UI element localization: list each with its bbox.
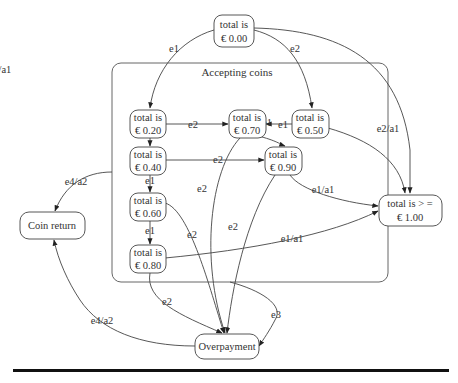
cluster-label: Accepting coins (201, 66, 272, 78)
svg-text:€ 0.40: € 0.40 (135, 162, 161, 173)
edge-label: e2/a1 (377, 123, 400, 134)
state-diagram: Accepting coins e1 e2 e3/a1 e2 e1 e2/a1 … (0, 0, 458, 383)
bottom-rule (13, 369, 449, 372)
edge-label: e1/a1 (312, 184, 335, 195)
edge-label: e4/a2 (65, 176, 88, 187)
edge-060-over (165, 203, 224, 333)
svg-text:Coin return: Coin return (28, 220, 77, 231)
edge-050-100 (328, 128, 405, 193)
svg-text:€ 1.00: € 1.00 (397, 212, 423, 223)
svg-text:€ 0.70: € 0.70 (234, 125, 260, 136)
svg-text:€ 0.20: € 0.20 (135, 125, 161, 136)
state-total-0-90: total is € 0.90 (265, 147, 302, 175)
svg-text:€ 0.80: € 0.80 (135, 260, 161, 271)
svg-text:total is: total is (134, 195, 162, 206)
state-total-0-80: total is € 0.80 (130, 245, 166, 273)
svg-text:total is > =: total is > = (387, 198, 432, 209)
edge-label: e2 (228, 221, 238, 232)
edge-label: e2 (187, 229, 197, 240)
svg-text:total is: total is (134, 247, 162, 258)
edge-label: e4/a2 (91, 315, 114, 326)
edge-label: e2 (162, 296, 172, 307)
state-overpayment: Overpayment (195, 334, 259, 359)
svg-text:total is: total is (134, 149, 162, 160)
state-total-0-70: total is € 0.70 (229, 110, 266, 138)
edge-overpayment-coinreturn (54, 240, 195, 346)
edge-label: e2 (213, 154, 223, 165)
edge-label: e1 (145, 175, 155, 186)
svg-text:€ 0.90: € 0.90 (270, 162, 296, 173)
state-total-0-50: total is € 0.50 (292, 110, 329, 138)
edge-090-over (227, 175, 275, 333)
edge-070-090 (258, 136, 285, 146)
edge-label: e2 (197, 183, 207, 194)
state-total-0-20: total is € 0.20 (130, 110, 166, 138)
state-coin-return: Coin return (20, 212, 85, 239)
state-total-1-00: total is > = € 1.00 (379, 195, 442, 226)
svg-text:total is: total is (296, 112, 324, 123)
edge-label: e2 (188, 119, 198, 130)
svg-text:€ 0.60: € 0.60 (135, 208, 161, 219)
svg-text:€ 0.00: € 0.00 (221, 33, 247, 44)
svg-text:€ 0.50: € 0.50 (297, 125, 323, 136)
edge-label: e1/a1 (281, 233, 304, 244)
svg-text:total is: total is (269, 149, 297, 160)
edge-label: e1 (145, 225, 155, 236)
state-total-0-00: total is € 0.00 (214, 15, 254, 47)
svg-text:Overpayment: Overpayment (198, 341, 255, 352)
edge-label: e1 (278, 119, 288, 130)
state-total-0-40: total is € 0.40 (130, 147, 166, 175)
edge-label: e3/a1 (0, 64, 11, 75)
edge-label: e3 (271, 309, 281, 320)
state-total-0-60: total is € 0.60 (130, 193, 166, 221)
edge-label: e2 (290, 43, 300, 54)
svg-text:total is: total is (233, 112, 261, 123)
svg-text:total is: total is (134, 112, 162, 123)
edge-label: e1 (169, 43, 179, 54)
svg-text:total is: total is (220, 19, 248, 30)
